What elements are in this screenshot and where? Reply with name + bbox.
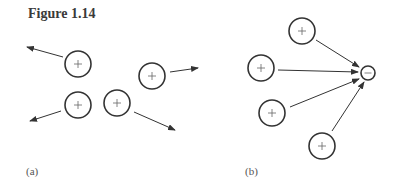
positive-charge (30, 92, 91, 121)
panel-a-repulsion (27, 47, 198, 130)
force-arrow-icon (27, 47, 63, 57)
positive-charge (248, 55, 358, 81)
positive-charge (309, 82, 364, 159)
positive-charge (259, 79, 359, 126)
force-arrow-icon (170, 68, 198, 72)
panel-b-label: (b) (245, 165, 258, 177)
force-arrow-icon (134, 112, 175, 130)
figure-canvas: Figure 1.14 (a) (b) (0, 0, 396, 188)
positive-charge (139, 63, 198, 89)
positive-charge (289, 18, 359, 67)
force-arrow-icon (30, 111, 61, 121)
force-arrow-icon (278, 70, 358, 72)
panel-b-attraction (248, 18, 375, 159)
force-arrow-icon (332, 82, 364, 131)
force-arrow-icon (290, 79, 359, 107)
positive-charge (27, 47, 91, 77)
charge-diagram (0, 0, 396, 188)
positive-charge (104, 90, 175, 130)
negative-charge (361, 66, 375, 80)
panel-a-label: (a) (26, 165, 38, 177)
force-arrow-icon (316, 40, 359, 67)
